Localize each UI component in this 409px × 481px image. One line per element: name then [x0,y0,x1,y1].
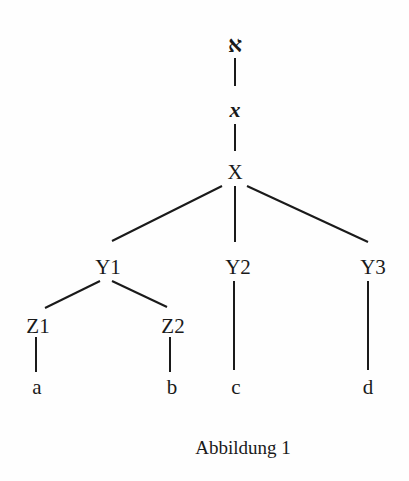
node-b: b [167,377,178,398]
node-d: d [363,377,374,398]
node-Z1: Z1 [26,316,49,337]
figure-caption: Abbildung 1 [195,437,291,459]
node-Y1: Y1 [95,257,121,278]
edge-Y1-Z1 [45,281,100,308]
tree-diagram: א x X Y1 Y2 Y3 Z1 Z2 a b c d Abbildung 1 [0,0,409,481]
tree-edges [0,0,409,481]
node-X: X [227,162,242,183]
edge-X-Y3 [247,186,368,242]
node-c: c [231,377,240,398]
node-Y2: Y2 [225,257,251,278]
node-Y3: Y3 [360,257,386,278]
node-chi: x [230,99,241,121]
edge-Y1-Z2 [112,281,167,307]
node-Z2: Z2 [161,316,184,337]
node-a: a [32,377,41,398]
node-aleph: א [228,34,242,56]
edge-X-Y1 [112,186,222,241]
